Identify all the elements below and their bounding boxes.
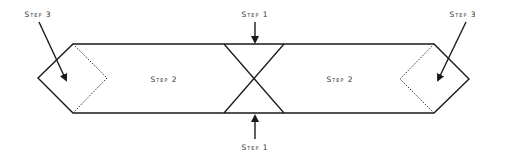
step2-right-label: Step 2 — [326, 76, 353, 84]
right-fold-dotted-line — [400, 44, 434, 113]
step3-left-arrow-icon — [39, 22, 66, 80]
step2-left-label: Step 2 — [150, 76, 177, 84]
step1-top-label: Step 1 — [241, 11, 268, 19]
step3-right-label: Step 3 — [449, 11, 476, 19]
step1-bottom-label: Step 1 — [241, 144, 268, 152]
folding-diagram: Step 3 Step 1 Step 3 Step 2 Step 2 Step … — [0, 0, 505, 162]
left-fold-dotted-line — [73, 44, 107, 113]
step3-left-label: Step 3 — [24, 11, 51, 19]
diagram-canvas — [0, 0, 505, 162]
